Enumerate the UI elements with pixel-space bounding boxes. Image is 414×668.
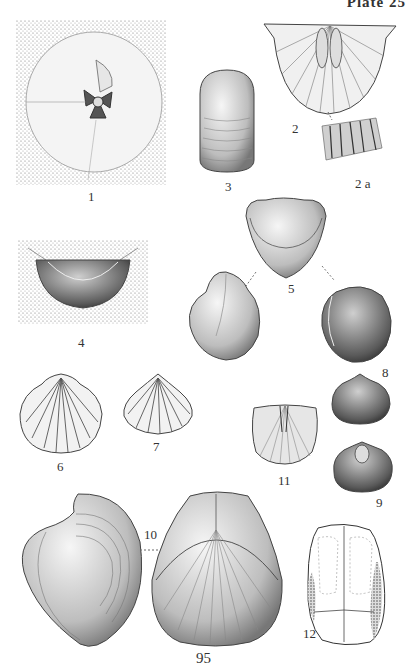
figure-2a-label: 2 a [355,177,371,190]
figure-1-illustration [16,20,166,185]
figure-12-illustration [304,522,388,646]
figure-6-illustration [18,372,104,454]
figure-3-illustration [192,68,262,174]
figure-10-label: 11 [278,474,291,487]
figure-11-front-view-illustration [150,490,284,650]
figure-9-illustration [332,440,394,494]
figure-2-label: 2 [292,122,299,135]
figure-5-label: 5 [288,282,295,295]
figure-7-illustration [120,372,196,436]
figure-3-label: 3 [225,180,232,193]
figure-4-illustration [18,240,148,324]
figure-9-label: 9 [376,496,383,509]
figure-10-illustration [250,402,320,464]
figure-11-side-view-illustration [16,492,144,652]
figure-2-illustration [262,22,398,114]
figure-12-label: 12 [303,627,316,640]
page-number: 95 [196,650,211,667]
figure-1-label: 1 [88,190,95,203]
figure-8-illustration [330,372,392,426]
figure-6-label: 6 [57,460,64,473]
figure-7-label: 7 [153,440,160,453]
plate-title: Plate 25 [347,0,406,11]
figure-4-label: 4 [78,336,85,349]
figure-2a-illustration [322,112,382,162]
figure-8-label: 8 [382,366,389,379]
